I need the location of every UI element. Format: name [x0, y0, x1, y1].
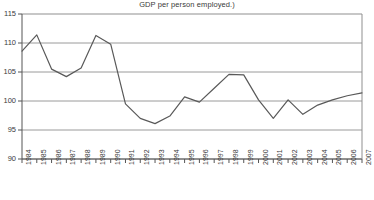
x-axis-label-1986: 1986	[55, 149, 62, 165]
x-axis-label-1993: 1993	[158, 149, 165, 165]
x-axis-label-2003: 2003	[306, 149, 313, 165]
y-axis-label-105: 105	[0, 68, 16, 76]
x-axis-label-2006: 2006	[350, 149, 357, 165]
y-axis-label-100: 100	[0, 97, 16, 105]
x-axis-label-1997: 1997	[217, 149, 224, 165]
x-axis-label-2004: 2004	[321, 149, 328, 165]
x-axis-label-1988: 1988	[84, 149, 91, 165]
chart-container: GDP per person employed.) 11511010510095…	[0, 0, 374, 200]
x-axis-label-2000: 2000	[262, 149, 269, 165]
x-axis-label-1992: 1992	[143, 149, 150, 165]
x-axis-label-2007: 2007	[365, 149, 372, 165]
axis-lines	[22, 14, 362, 159]
x-axis-label-1998: 1998	[232, 149, 239, 165]
y-axis-label-95: 95	[0, 126, 16, 134]
y-axis-ticks	[18, 14, 22, 159]
line-chart-plot	[0, 0, 374, 200]
y-axis-label-90: 90	[0, 155, 16, 163]
x-axis-label-1987: 1987	[69, 149, 76, 165]
x-axis-label-1990: 1990	[114, 149, 121, 165]
x-axis-label-2001: 2001	[276, 149, 283, 165]
x-axis-label-1996: 1996	[202, 149, 209, 165]
x-axis-label-1994: 1994	[173, 149, 180, 165]
x-axis-label-1991: 1991	[128, 149, 135, 165]
x-axis-label-1999: 1999	[247, 149, 254, 165]
x-axis-label-1985: 1985	[40, 149, 47, 165]
y-axis-label-115: 115	[0, 10, 16, 18]
x-axis-label-1989: 1989	[99, 149, 106, 165]
grid-lines	[22, 14, 362, 159]
data-series-line	[22, 35, 362, 124]
x-axis-label-1995: 1995	[188, 149, 195, 165]
y-axis-label-110: 110	[0, 39, 16, 47]
x-axis-label-2005: 2005	[335, 149, 342, 165]
x-axis-label-1984: 1984	[25, 149, 32, 165]
x-axis-label-2002: 2002	[291, 149, 298, 165]
